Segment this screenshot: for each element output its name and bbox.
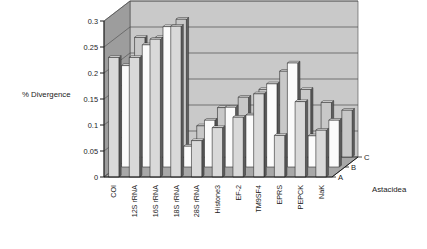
category-label: 16S rRNA [151, 185, 160, 218]
bar-eprs-A [274, 134, 287, 177]
depth-axis-title: Astacidea [372, 185, 407, 194]
bar-nak-C [342, 109, 355, 158]
bar-pepck-A [295, 100, 308, 177]
bar-28s-rrna-A [191, 139, 204, 177]
bar-16s-rrna-A [150, 38, 163, 178]
category-label: NaK [317, 185, 326, 199]
series-axis-label-C: C [364, 153, 370, 162]
series-axis-label-B: B [351, 163, 356, 172]
y-tick-label: 0.15 [84, 95, 98, 104]
category-label: TM9SF4 [254, 185, 263, 213]
bar-nak-B [329, 119, 342, 168]
chart-canvas: 00.050.10.150.20.250.3 COI12S rRNA16S rR… [0, 0, 427, 249]
bar-coi-A [109, 56, 122, 177]
series-axis-label-A: A [338, 173, 344, 182]
y-tick-label: 0 [94, 173, 98, 182]
category-label: Histone3 [213, 185, 222, 213]
category-labels: COI12S rRNA16S rRNA18S rRNA28S rRNAHisto… [109, 185, 325, 218]
category-label: 12S rRNA [130, 185, 139, 218]
bar-histone3-A [212, 126, 225, 177]
bar-ef-2-A [233, 116, 246, 178]
bar-nak-A [316, 129, 329, 178]
y-tick-label: 0.2 [88, 69, 98, 78]
category-label: 18S rRNA [172, 185, 181, 218]
category-label: PEPCK [296, 185, 305, 210]
bar-18s-rrna-A [171, 25, 184, 178]
bar-12s-rrna-A [129, 56, 142, 177]
divergence-bar-chart: 00.050.10.150.20.250.3 COI12S rRNA16S rR… [0, 0, 427, 249]
y-tick-label: 0.25 [84, 43, 98, 52]
y-axis-title: % Divergence [22, 90, 71, 99]
category-label: COI [109, 185, 118, 198]
category-label: 28S rRNA [192, 185, 201, 218]
y-axis-ticks: 00.050.10.150.20.250.3 [84, 17, 104, 182]
y-tick-label: 0.1 [88, 121, 98, 130]
y-tick-label: 0.3 [88, 17, 98, 26]
category-label: EPRS [275, 185, 284, 205]
y-tick-label: 0.05 [84, 147, 98, 156]
category-label: EF-2 [234, 185, 243, 201]
bar-tm9sf4-A [254, 92, 267, 177]
